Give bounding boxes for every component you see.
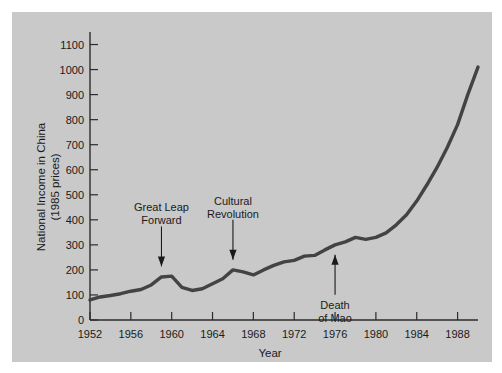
annotation-label-line2: Revolution	[207, 208, 259, 220]
x-tick-label: 1964	[200, 328, 224, 340]
x-tick-label: 1960	[159, 328, 183, 340]
y-tick-label: 900	[66, 89, 84, 101]
annotation-arrow-head	[229, 250, 236, 260]
annotation-arrow-head	[158, 256, 165, 266]
annotation-label-line1: Cultural	[214, 195, 252, 207]
x-tick-label: 1988	[445, 328, 469, 340]
x-tick-label: 1952	[78, 328, 102, 340]
x-tick-label: 1956	[119, 328, 143, 340]
x-tick-label: 1972	[282, 328, 306, 340]
x-axis-title: Year	[258, 347, 281, 359]
chart-panel: National Income in China (1985 prices) 0…	[12, 12, 492, 362]
x-axis-ticks: 1952195619601964196819721976198019841988	[78, 312, 470, 340]
national-income-line-chart: National Income in China (1985 prices) 0…	[12, 12, 492, 362]
annotation-label-line1: Death	[320, 299, 349, 311]
annotation-label-line2: Forward	[141, 214, 181, 226]
x-tick-label: 1980	[364, 328, 388, 340]
x-tick-label: 1976	[323, 328, 347, 340]
annotation-label-line2: of Mao	[318, 312, 352, 324]
y-tick-label: 400	[66, 214, 84, 226]
y-axis-title-line2: (1985 prices)	[49, 153, 61, 220]
y-tick-label: 1000	[60, 64, 84, 76]
annotation-label-line1: Great Leap	[134, 201, 189, 213]
y-tick-label: 800	[66, 114, 84, 126]
annotation-1: Great LeapForward	[134, 201, 189, 266]
annotation-arrow-head	[331, 255, 338, 265]
y-axis-title-line1: National Income in China	[35, 122, 47, 251]
y-tick-label: 600	[66, 164, 84, 176]
y-tick-label: 0	[78, 314, 84, 326]
y-axis-ticks: 010020030040050060070080090010001100	[60, 39, 98, 326]
annotation-3: Deathof Mao	[318, 255, 352, 324]
annotation-2: CulturalRevolution	[207, 195, 259, 260]
x-tick-label: 1984	[404, 328, 428, 340]
y-tick-label: 700	[66, 139, 84, 151]
y-tick-label: 500	[66, 189, 84, 201]
national-income-series	[90, 67, 478, 300]
y-tick-label: 100	[66, 289, 84, 301]
y-tick-label: 1100	[60, 39, 84, 51]
y-tick-label: 300	[66, 239, 84, 251]
y-tick-label: 200	[66, 264, 84, 276]
figure-root: National Income in China (1985 prices) 0…	[0, 0, 502, 373]
y-axis-title: National Income in China (1985 prices)	[35, 122, 61, 251]
annotations: Great LeapForwardCulturalRevolutionDeath…	[134, 195, 352, 324]
x-tick-label: 1968	[241, 328, 265, 340]
